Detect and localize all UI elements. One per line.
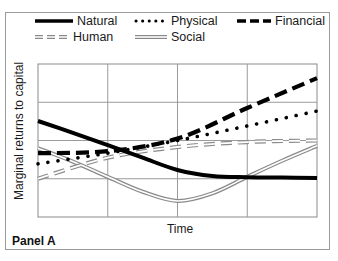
panel-label: Panel A xyxy=(12,234,56,248)
x-axis-label: Time xyxy=(160,222,200,236)
y-axis-label: Marginal returns to capital xyxy=(12,70,26,200)
